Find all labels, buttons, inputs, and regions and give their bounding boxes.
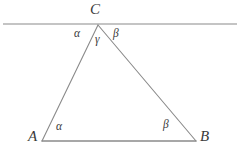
- angle-label-alpha-at-a: α: [56, 121, 62, 133]
- angle-label-beta-at-b: β: [163, 119, 169, 131]
- triangle-side-ac: [42, 25, 98, 141]
- vertex-label-c: C: [90, 2, 100, 17]
- angle-label-gamma-at-c: γ: [95, 34, 100, 46]
- angle-label-alpha-at-c: α: [74, 28, 80, 40]
- triangle-side-cb: [98, 25, 196, 141]
- angle-label-beta-at-c: β: [113, 28, 119, 40]
- vertex-label-b: B: [200, 129, 209, 144]
- vertex-label-a: A: [28, 129, 37, 144]
- geometry-diagram: C A B α γ β α β: [0, 0, 244, 156]
